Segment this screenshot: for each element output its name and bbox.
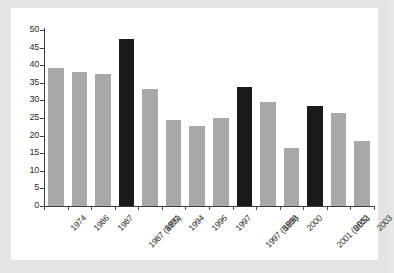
- bar: [331, 113, 347, 206]
- y-axis-tick-mark: [40, 188, 44, 189]
- bar: [119, 39, 135, 206]
- x-axis-tick-mark: [115, 206, 116, 210]
- x-axis-tick-mark: [303, 206, 304, 210]
- x-axis-tick-mark: [91, 206, 92, 210]
- x-axis-label: 1986: [92, 213, 112, 233]
- plot-area: 05101520253035404550: [44, 30, 374, 206]
- x-axis-label: 1996: [210, 213, 230, 233]
- x-axis-tick-mark: [280, 206, 281, 210]
- x-axis-label: 1987: [115, 213, 135, 233]
- x-axis-tick-mark: [44, 206, 45, 210]
- y-axis-tick-mark: [40, 118, 44, 119]
- y-axis-tick-label: 30: [29, 94, 39, 104]
- bar: [142, 89, 158, 206]
- x-axis-label: 1974: [68, 213, 88, 233]
- y-axis-tick-label: 50: [29, 24, 39, 34]
- y-axis-tick-label: 20: [29, 130, 39, 140]
- x-axis-tick-mark: [138, 206, 139, 210]
- x-axis-tick-mark: [162, 206, 163, 210]
- bar: [213, 118, 229, 206]
- y-axis-tick-mark: [40, 136, 44, 137]
- bar: [166, 120, 182, 206]
- y-axis-tick-label: 45: [29, 42, 39, 52]
- bar: [260, 102, 276, 206]
- y-axis-tick-mark: [40, 153, 44, 154]
- y-axis-tick-mark: [40, 65, 44, 66]
- x-axis-tick-mark: [233, 206, 234, 210]
- y-axis-tick-mark: [40, 48, 44, 49]
- bar: [48, 68, 64, 206]
- y-axis-tick-label: 25: [29, 112, 39, 122]
- x-axis-tick-mark: [350, 206, 351, 210]
- y-axis-tick-label: 40: [29, 59, 39, 69]
- x-axis-tick-mark: [374, 206, 375, 210]
- y-axis-tick-mark: [40, 171, 44, 172]
- y-axis-tick-mark: [40, 30, 44, 31]
- bar: [95, 74, 111, 206]
- x-axis-tick-mark: [209, 206, 210, 210]
- bar: [237, 87, 253, 206]
- y-axis-tick-label: 5: [34, 182, 39, 192]
- bar: [284, 148, 300, 206]
- x-axis-label: 2003: [375, 213, 394, 233]
- y-axis-tick-mark: [40, 100, 44, 101]
- y-axis-tick-mark: [40, 83, 44, 84]
- x-axis-label: 2000: [304, 213, 324, 233]
- x-axis-label: 1997: [233, 213, 253, 233]
- x-axis-label: 1994: [186, 213, 206, 233]
- x-axis-tick-mark: [256, 206, 257, 210]
- chart-panel: 05101520253035404550 1974198619871987 (B…: [11, 8, 378, 260]
- bar: [189, 126, 205, 206]
- x-axis-tick-mark: [185, 206, 186, 210]
- y-axis-tick-label: 10: [29, 165, 39, 175]
- y-axis-tick-label: 35: [29, 77, 39, 87]
- bar: [307, 106, 323, 206]
- bar: [72, 72, 88, 206]
- y-axis-tick-label: 0: [34, 200, 39, 210]
- y-axis-tick-label: 15: [29, 147, 39, 157]
- x-axis-tick-mark: [327, 206, 328, 210]
- bar: [354, 141, 370, 206]
- x-axis-tick-mark: [68, 206, 69, 210]
